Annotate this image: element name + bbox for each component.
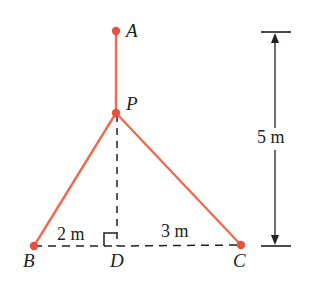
- geometry-figure: A P B D C 2 m 3 m 5 m: [0, 0, 309, 288]
- dimension-label-bd: 2 m: [57, 225, 85, 243]
- segment-DC-dashed: [117, 245, 241, 246]
- dimension-label-height: 5 m: [257, 128, 285, 146]
- point-label-D: D: [110, 251, 124, 270]
- right-angle-marker: [104, 233, 117, 246]
- point-label-B: B: [23, 251, 35, 270]
- dimension-arrowhead-down-icon: [271, 235, 279, 245]
- dimension-label-dc: 3 m: [161, 222, 189, 240]
- node-dot-P: [112, 109, 120, 117]
- point-label-C: C: [233, 251, 246, 270]
- node-dot-A: [112, 27, 120, 35]
- node-dot-C: [237, 241, 245, 249]
- dimension-arrowhead-up-icon: [271, 33, 279, 43]
- node-dot-B: [30, 242, 38, 250]
- point-label-A: A: [126, 21, 138, 40]
- point-label-P: P: [126, 94, 138, 113]
